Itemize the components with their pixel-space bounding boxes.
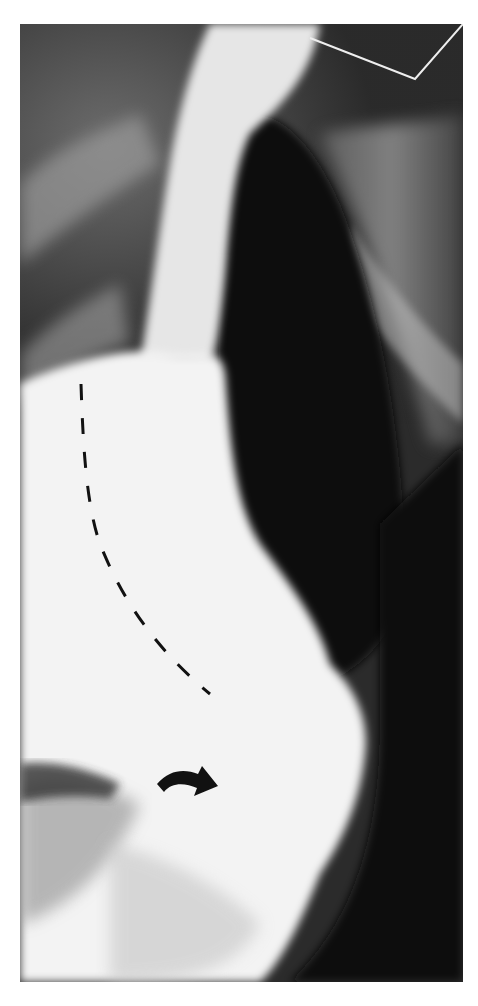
radiograph-svg bbox=[20, 24, 463, 982]
radiograph-image bbox=[20, 24, 463, 982]
